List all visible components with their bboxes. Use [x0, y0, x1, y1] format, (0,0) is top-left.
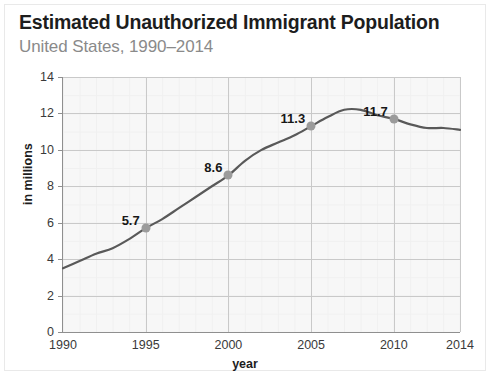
x-tick-label: 1995 — [132, 338, 160, 352]
x-axis-line — [62, 332, 460, 333]
page-title: Estimated Unauthorized Immigrant Populat… — [19, 11, 439, 34]
x-tick-label: 2010 — [380, 338, 408, 352]
data-point-label: 8.6 — [204, 160, 228, 175]
data-point-label: 11.7 — [363, 103, 394, 118]
y-axis-title: in millions — [21, 143, 35, 205]
data-point-label: 11.3 — [281, 111, 312, 126]
y-tick-label: 6 — [47, 216, 54, 230]
x-tick-label: 2005 — [297, 338, 325, 352]
chart-card: Estimated Unauthorized Immigrant Populat… — [4, 4, 486, 371]
y-tick-mark — [58, 332, 63, 333]
y-tick-label: 14 — [40, 70, 54, 84]
y-tick-label: 4 — [47, 252, 54, 266]
y-tick-label: 8 — [47, 179, 54, 193]
page-subtitle: United States, 1990–2014 — [19, 37, 213, 57]
y-tick-label: 0 — [47, 325, 54, 339]
y-tick-label: 10 — [40, 143, 54, 157]
x-tick-label: 2000 — [215, 338, 243, 352]
data-line — [63, 77, 460, 332]
x-tick-label: 2014 — [446, 338, 474, 352]
y-tick-label: 2 — [47, 289, 54, 303]
plot-area: 02468101214 199019952000200520102014 5.7… — [63, 77, 460, 332]
x-tick-label: 1990 — [49, 338, 77, 352]
data-point-label: 5.7 — [122, 213, 146, 228]
y-tick-label: 12 — [40, 106, 54, 120]
gridline-vertical — [460, 77, 461, 332]
x-axis-title: year — [5, 357, 485, 371]
